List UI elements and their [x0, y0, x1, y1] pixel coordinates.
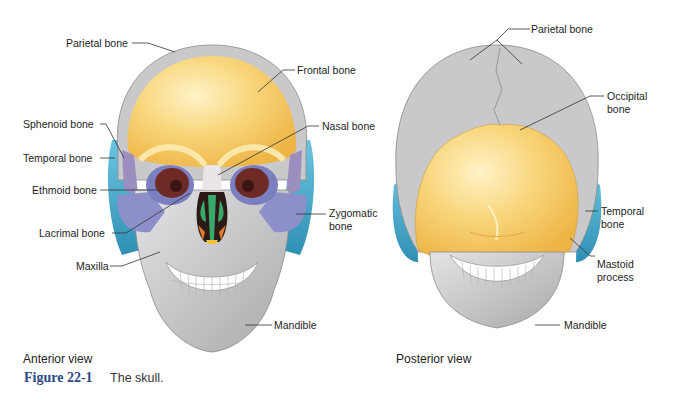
skull-illustrations: [0, 0, 684, 410]
label-mastoid-line1: Mastoid: [597, 258, 634, 270]
label-anterior-maxilla: Maxilla: [76, 260, 109, 273]
label-anterior-sphenoid: Sphenoid bone: [23, 118, 94, 131]
posterior-skull: [393, 45, 602, 328]
posterior-view-caption: Posterior view: [396, 352, 471, 366]
figure-caption-text: The skull.: [110, 371, 164, 385]
label-posterior-mastoid: Mastoid process: [597, 258, 634, 284]
anterior-skull: [108, 45, 314, 352]
label-posterior-mandible: Mandible: [564, 319, 607, 332]
figure-number: Figure 22-1: [24, 370, 93, 385]
label-zygomatic-line1: Zygomatic: [329, 207, 377, 219]
label-anterior-frontal: Frontal bone: [297, 64, 356, 77]
label-mastoid-line2: process: [597, 271, 634, 283]
skull-figure: Parietal bone Frontal bone Sphenoid bone…: [0, 0, 684, 410]
label-anterior-ethmoid: Ethmoid bone: [32, 184, 97, 197]
label-anterior-mandible: Mandible: [274, 319, 317, 332]
label-zygomatic-line2: bone: [329, 220, 352, 232]
label-anterior-lacrimal: Lacrimal bone: [39, 227, 105, 240]
figure-caption: Figure 22-1 The skull.: [24, 370, 164, 386]
label-temporal-line2: bone: [601, 218, 624, 230]
label-temporal-line1: Temporal: [601, 205, 644, 217]
label-anterior-parietal: Parietal bone: [66, 37, 128, 50]
anterior-view-caption: Anterior view: [23, 352, 92, 366]
label-anterior-temporal: Temporal bone: [23, 152, 92, 165]
label-occipital-line2: bone: [607, 103, 630, 115]
label-anterior-nasal: Nasal bone: [322, 120, 375, 133]
label-occipital-line1: Occipital: [607, 90, 647, 102]
label-posterior-parietal: Parietal bone: [531, 23, 593, 36]
label-posterior-occipital: Occipital bone: [607, 90, 647, 116]
label-posterior-temporal: Temporal bone: [601, 205, 644, 231]
label-anterior-zygomatic: Zygomatic bone: [329, 207, 377, 233]
